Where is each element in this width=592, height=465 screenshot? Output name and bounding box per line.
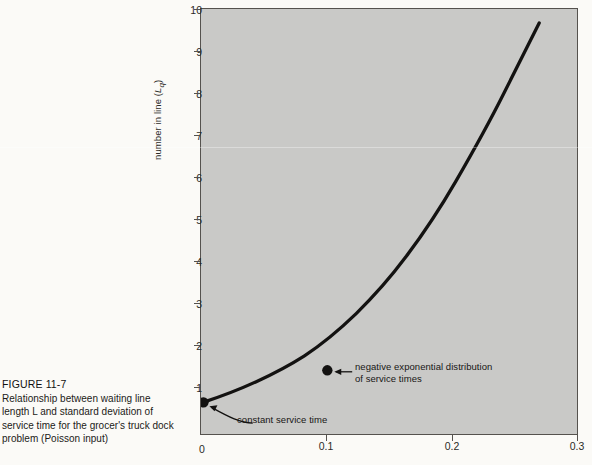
y-tick-label-8: 8	[172, 89, 202, 100]
y-tick-label-1: 1	[172, 383, 202, 394]
x-tick-label-0.2: 0.2	[437, 441, 467, 452]
y-tick-mark-5	[194, 219, 200, 220]
y-tick-label-3: 3	[172, 299, 202, 310]
annotation-negative-exponential: negative exponential distribution of ser…	[355, 361, 525, 384]
y-tick-label-7: 7	[172, 131, 202, 142]
y-tick-label-4: 4	[172, 257, 202, 268]
x-tick-label-0.3: 0.3	[562, 441, 592, 452]
x-tick-mark-0.1	[326, 435, 327, 441]
y-tick-mark-3	[194, 303, 200, 304]
y-tick-mark-9	[194, 51, 200, 52]
x-tick-mark-0.3	[577, 435, 578, 441]
marker-constant-service-time	[201, 397, 209, 407]
figure-page: number in line (Lq) 10 9 8 7 6 5 4 3 2 1…	[0, 0, 592, 465]
y-tick-label-5: 5	[172, 215, 202, 226]
x-tick-label-0.1: 0.1	[311, 441, 341, 452]
y-axis-title-symbol: L	[152, 88, 163, 93]
y-axis-title-prefix: number in line (	[152, 93, 163, 160]
y-axis-title-suffix: )	[152, 80, 163, 83]
y-tick-mark-1	[194, 387, 200, 388]
y-tick-label-10: 10	[172, 5, 202, 16]
y-tick-mark-4	[194, 261, 200, 262]
annotation-constant-service-time: constant service time	[237, 414, 387, 426]
y-tick-label-9: 9	[172, 47, 202, 58]
y-tick-mark-2	[194, 345, 200, 346]
y-axis-title: number in line (Lq)	[152, 142, 166, 160]
marker-negative-exponential	[322, 365, 332, 375]
figure-caption-title: FIGURE 11-7	[2, 378, 174, 391]
x-tick-mark-0.2	[452, 435, 453, 441]
y-axis-title-subscript: q	[157, 83, 166, 88]
y-tick-mark-7	[194, 135, 200, 136]
curve-number-in-line	[203, 23, 539, 402]
figure-caption-body: Relationship between waiting line length…	[2, 392, 174, 445]
y-tick-label-2: 2	[172, 341, 202, 352]
y-tick-label-6: 6	[172, 173, 202, 184]
y-tick-mark-6	[194, 177, 200, 178]
figure-caption: FIGURE 11-7 Relationship between waiting…	[2, 378, 174, 445]
leader-negative-exponential	[334, 369, 352, 375]
x-tick-label-0: 0	[187, 444, 217, 455]
y-tick-mark-8	[194, 93, 200, 94]
y-tick-mark-10	[194, 9, 200, 10]
